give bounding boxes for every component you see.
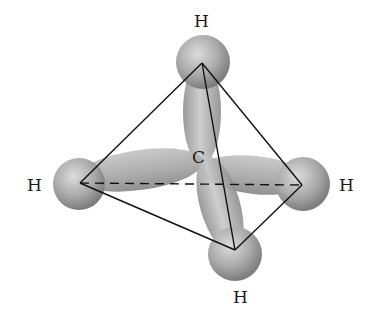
hydrogen-label-left: H	[27, 177, 42, 194]
hydrogen-label-right: H	[339, 177, 354, 194]
sphere-bottom	[208, 227, 262, 281]
hydrogen-label-bottom: H	[233, 289, 248, 306]
hydrogen-label-top: H	[194, 13, 209, 30]
tetrahedron-figure	[0, 0, 372, 318]
methane-diagram: C H H H H	[0, 0, 372, 318]
carbon-label: C	[192, 149, 205, 166]
